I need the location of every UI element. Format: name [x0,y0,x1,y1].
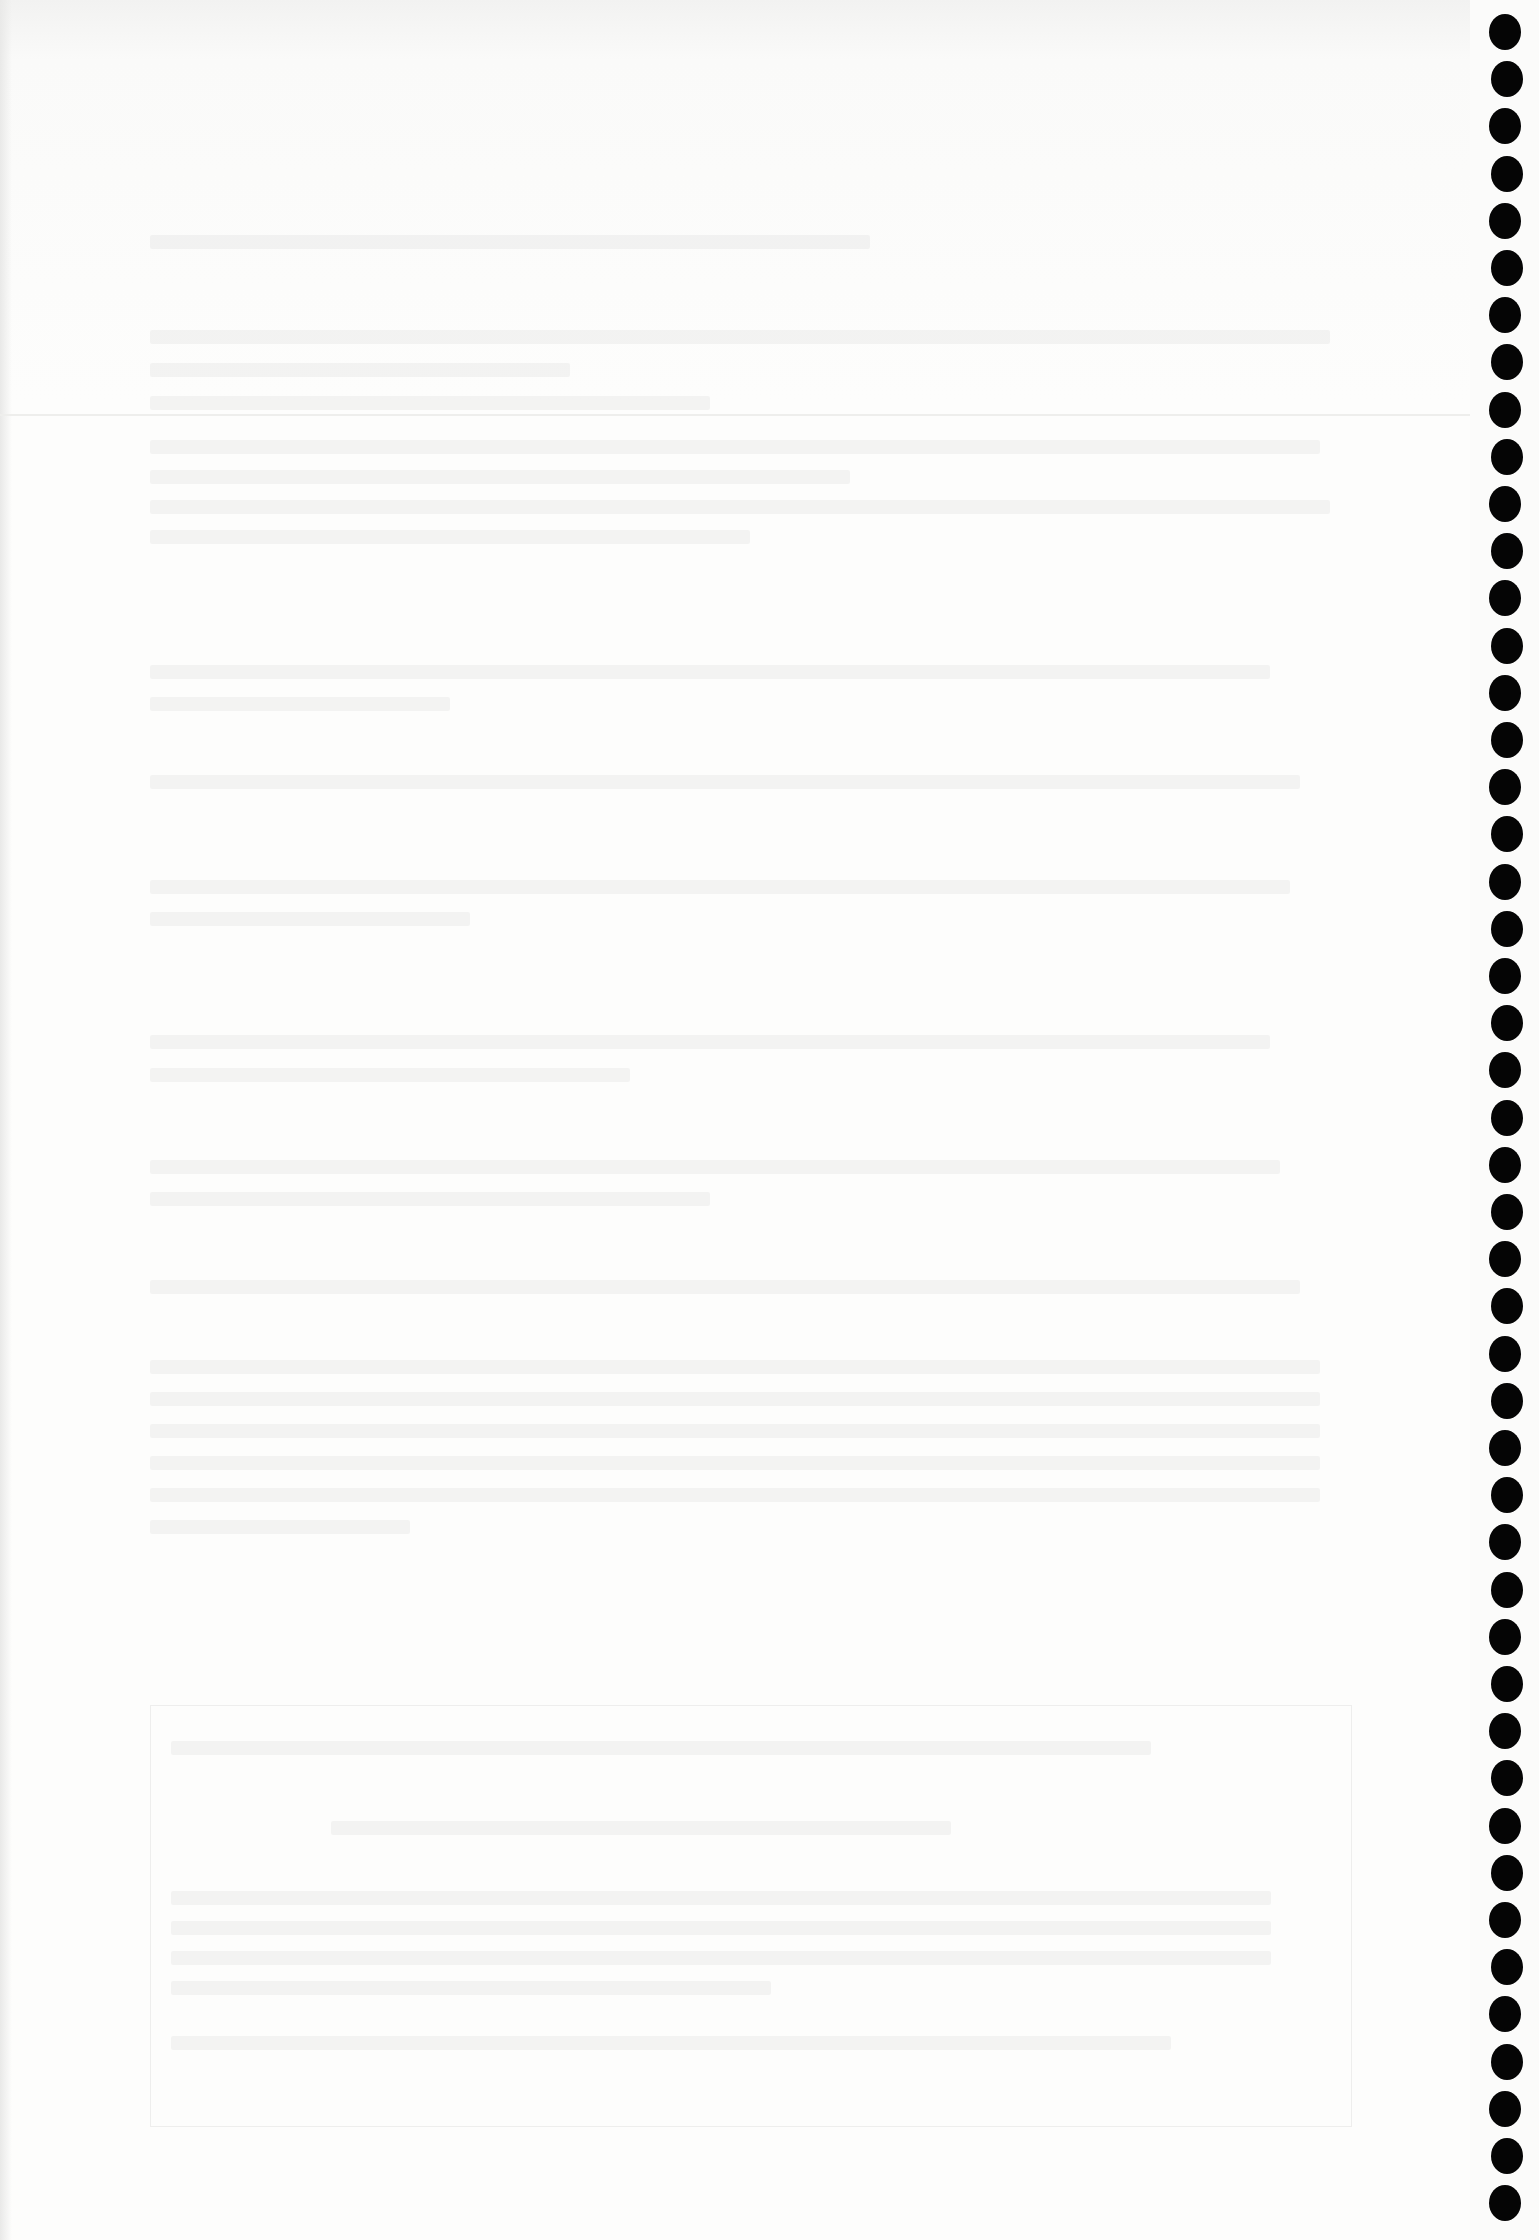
faded-text-line [150,500,1330,514]
faded-text-line [150,1488,1320,1502]
binding-hole [1489,486,1521,522]
binding-hole [1489,2185,1521,2221]
binding-hole [1489,1241,1521,1277]
faded-text-line [150,235,870,249]
binding-hole [1491,911,1523,947]
binding-hole [1489,1336,1521,1372]
faded-text-line [150,1360,1320,1374]
faded-text-line [150,1035,1270,1049]
faded-text-line [150,330,1330,344]
faded-text-line [150,440,1320,454]
binding-hole [1491,1949,1523,1985]
binding-hole [1489,1524,1521,1560]
binding-hole [1491,1666,1523,1702]
binding-hole [1491,1100,1523,1136]
binding-hole [1489,1902,1521,1938]
binding-hole [1491,250,1523,286]
faded-text-line [150,363,570,377]
faded-text-line [171,1981,771,1995]
binding-hole [1489,297,1521,333]
faded-text-line [150,912,470,926]
faded-text-line [150,1424,1320,1438]
binding-hole [1491,628,1523,664]
binding-hole [1489,769,1521,805]
binding-hole [1491,533,1523,569]
faded-text-line [171,1951,1271,1965]
faded-text-line [150,697,450,711]
faded-text-line [150,1068,630,1082]
spiral-binding [1469,0,1539,2240]
binding-hole [1491,1855,1523,1891]
boxed-section [150,1705,1352,2127]
binding-hole [1489,864,1521,900]
faded-text-line [171,2036,1171,2050]
binding-hole [1489,1713,1521,1749]
binding-hole [1489,675,1521,711]
binding-hole [1489,1619,1521,1655]
binding-hole [1491,439,1523,475]
faded-text-line [150,396,710,410]
binding-hole [1489,1430,1521,1466]
binding-hole [1489,1052,1521,1088]
binding-hole [1489,1808,1521,1844]
binding-hole [1489,2091,1521,2127]
binding-hole [1491,816,1523,852]
binding-hole [1489,392,1521,428]
binding-hole [1491,1383,1523,1419]
binding-hole [1491,722,1523,758]
faded-text-line [150,1456,1320,1470]
faded-text-line [331,1821,951,1835]
binding-hole [1491,2138,1523,2174]
binding-hole [1489,958,1521,994]
fold-line [0,414,1470,416]
faded-text-line [150,775,1300,789]
faded-text-line [150,1192,710,1206]
binding-hole [1489,1996,1521,2032]
binding-hole [1491,1477,1523,1513]
faded-text-line [150,470,850,484]
faded-text-line [171,1921,1271,1935]
binding-hole [1491,1005,1523,1041]
faded-text-line [150,1280,1300,1294]
binding-hole [1491,2044,1523,2080]
faded-text-line [150,880,1290,894]
faded-text-line [150,1520,410,1534]
binding-hole [1489,14,1521,50]
binding-hole [1489,203,1521,239]
page-edge-shadow [0,0,12,2240]
binding-hole [1491,61,1523,97]
binding-hole [1491,1288,1523,1324]
faded-text-line [171,1741,1151,1755]
binding-hole [1491,1194,1523,1230]
binding-hole [1489,580,1521,616]
faded-text-line [150,1160,1280,1174]
binding-hole [1489,108,1521,144]
faded-text-line [150,530,750,544]
document-page [0,0,1470,2240]
faded-text-line [150,665,1270,679]
binding-hole [1491,1760,1523,1796]
binding-hole [1491,1572,1523,1608]
binding-hole [1489,1147,1521,1183]
faded-text-line [150,1392,1320,1406]
faded-text-line [171,1891,1271,1905]
binding-hole [1491,344,1523,380]
binding-hole [1491,156,1523,192]
